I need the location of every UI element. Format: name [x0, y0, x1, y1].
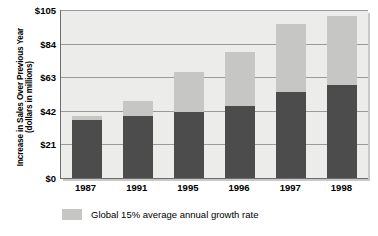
- y-axis-tick-label: $105: [12, 5, 56, 16]
- gridline: [61, 111, 368, 112]
- bar-chart-figure: Increase in Sales Over Previous Year (do…: [0, 0, 378, 236]
- gridline: [61, 44, 368, 45]
- x-axis-tick-label: 1998: [318, 182, 364, 193]
- x-axis-tick-label: 1991: [114, 182, 160, 193]
- y-axis-tick-label: $84: [12, 38, 56, 49]
- bar-segment-actual-sales: [174, 112, 204, 178]
- x-axis-tick-label: 1987: [63, 182, 109, 193]
- plot-area: [60, 10, 368, 179]
- y-axis-tick-labels: $0$21$42$63$84$105: [10, 0, 56, 236]
- gridline: [61, 10, 368, 11]
- bar-segment-actual-sales: [276, 92, 306, 178]
- bar-segment-actual-sales: [225, 106, 255, 178]
- x-axis-tick-labels: 198719911995199619971998: [60, 182, 367, 196]
- bar-segment-actual-sales: [72, 120, 102, 178]
- chart-legend: Global 15% average annual growth rate: [62, 209, 258, 220]
- gridline: [61, 77, 368, 78]
- legend-swatch-growth-rate: [62, 209, 82, 220]
- y-axis-tick-label: $21: [12, 139, 56, 150]
- y-axis-tick-label: $63: [12, 72, 56, 83]
- x-axis-tick-label: 1997: [267, 182, 313, 193]
- y-axis-tick-label: $42: [12, 105, 56, 116]
- x-axis-tick-label: 1996: [216, 182, 262, 193]
- x-axis-tick-label: 1995: [165, 182, 211, 193]
- bar-segment-actual-sales: [123, 116, 153, 178]
- legend-label-growth-rate: Global 15% average annual growth rate: [91, 209, 258, 220]
- bar-segment-actual-sales: [327, 85, 357, 178]
- gridline: [61, 144, 368, 145]
- y-axis-tick-label: $0: [12, 173, 56, 184]
